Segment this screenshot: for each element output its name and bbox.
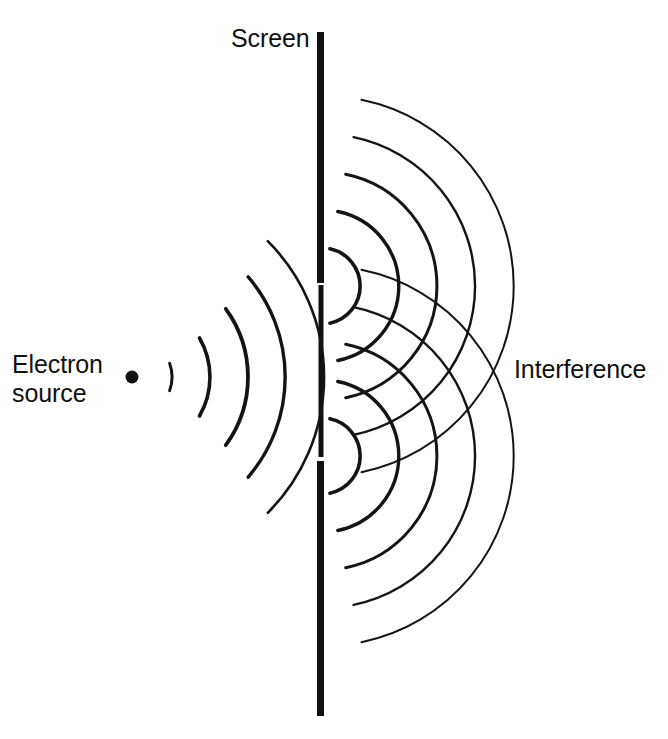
incoming-arc-1 [170, 363, 172, 390]
incoming-wavefronts [170, 241, 324, 513]
upper-arc-2 [338, 212, 399, 361]
screen-barrier [321, 32, 322, 716]
incoming-arc-4 [248, 277, 285, 477]
outgoing-wavefronts-lower-source [330, 270, 514, 642]
interference-label: Interference [514, 355, 646, 384]
incoming-arc-5 [268, 241, 324, 513]
lower-arc-1 [330, 419, 360, 493]
diagram-canvas: Screen Electronsource Interference [0, 0, 668, 739]
incoming-arc-3 [226, 309, 248, 445]
electron-source-label-line1: Electron [12, 350, 103, 378]
upper-arc-1 [330, 249, 360, 323]
incoming-arc-2 [200, 338, 210, 416]
electron-source-label: Electronsource [12, 350, 103, 408]
electron-source-dot [126, 371, 139, 384]
electron-source-label-line2: source [12, 379, 86, 407]
outgoing-wavefronts-upper-source [330, 100, 514, 472]
lower-arc-2 [338, 382, 399, 531]
screen-label: Screen [231, 24, 310, 53]
